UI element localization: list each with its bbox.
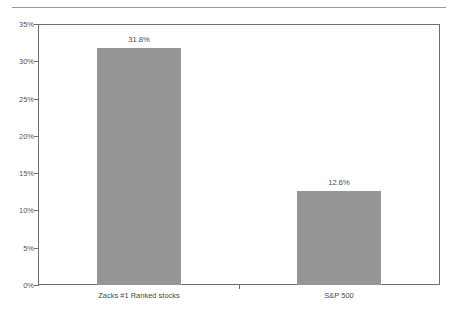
y-axis-tick-mark — [34, 210, 39, 211]
y-axis-tick-label: 20% — [6, 131, 34, 140]
y-axis-tick-mark — [34, 24, 39, 25]
y-axis-tick-label: 0% — [6, 281, 34, 290]
y-axis-tick-mark — [34, 61, 39, 62]
x-axis-tick-mark — [239, 285, 240, 289]
y-axis-tick-label: 5% — [6, 243, 34, 252]
bar-chart-figure: 0%5%10%15%20%25%30%35% 31.8%12.6% Zacks … — [0, 0, 458, 316]
x-axis-category-label: Zacks #1 Ranked stocks — [57, 291, 221, 300]
y-axis-tick-label: 10% — [6, 206, 34, 215]
y-axis-tick-mark — [34, 136, 39, 137]
y-axis-tick-mark — [34, 173, 39, 174]
y-axis-tick-label: 30% — [6, 57, 34, 66]
y-axis-tick-mark — [34, 99, 39, 100]
top-divider-rule — [12, 7, 446, 8]
bar-value-label: 31.8% — [97, 35, 181, 44]
y-axis-tick-mark — [34, 285, 39, 286]
x-axis-category-label: S&P 500 — [257, 291, 421, 300]
y-axis-tick-label: 25% — [6, 94, 34, 103]
y-axis-tick-mark — [34, 248, 39, 249]
bar[interactable] — [297, 191, 381, 285]
bar-value-label: 12.6% — [297, 178, 381, 187]
y-axis-tick-label: 15% — [6, 169, 34, 178]
y-axis-tick-label: 35% — [6, 20, 34, 29]
bar[interactable] — [97, 48, 181, 285]
